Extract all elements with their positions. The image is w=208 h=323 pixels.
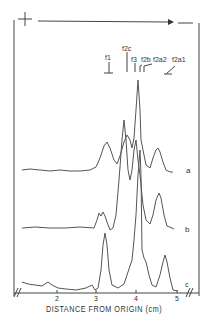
direction-arrow-line bbox=[38, 21, 168, 22]
f2a1-marker bbox=[164, 66, 175, 74]
label-f2a1: f2a1 bbox=[172, 56, 186, 63]
trace-b bbox=[22, 120, 174, 230]
trace-c bbox=[22, 150, 178, 291]
label-f2a2: f2a2 bbox=[153, 56, 167, 63]
trace-label-c: c bbox=[185, 281, 189, 288]
arrow-head-icon bbox=[168, 19, 174, 25]
label-f1: f1 bbox=[105, 54, 111, 61]
label-f2c: f2c bbox=[122, 45, 132, 52]
trace-label-b: b bbox=[185, 225, 190, 234]
tick-label-2: 2 bbox=[55, 295, 59, 302]
x-axis-title: DISTANCE FROM ORIGIN (cm) bbox=[16, 304, 193, 314]
tick-label-4: 4 bbox=[134, 295, 138, 302]
tick-label-3: 3 bbox=[94, 295, 98, 302]
densitometer-chart: f1 f2c f3 f2b f2a2 f2a1 a b c 2 3 4 5 bbox=[0, 0, 208, 323]
trace-label-a: a bbox=[186, 166, 191, 175]
f2b-marker bbox=[140, 65, 142, 72]
label-f3: f3 bbox=[131, 56, 137, 63]
tick-label-5: 5 bbox=[175, 295, 179, 302]
trace-a bbox=[22, 80, 173, 172]
label-f2b: f2b bbox=[141, 56, 151, 63]
f2a2-marker bbox=[144, 64, 152, 72]
